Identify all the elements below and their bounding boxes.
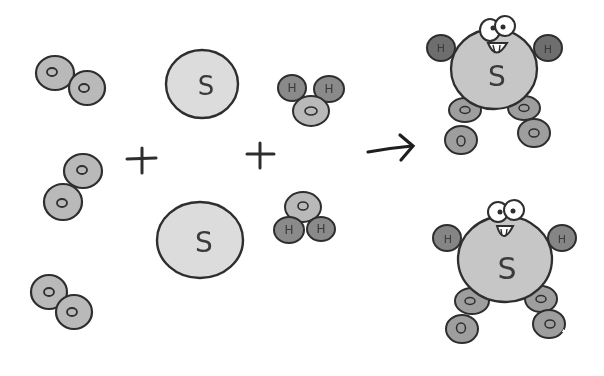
- oxygen-molecule: [36, 56, 105, 105]
- sulfur-label: S: [488, 60, 506, 93]
- oxygen-molecule: [31, 275, 92, 329]
- hydrogen-label: H: [558, 233, 566, 246]
- hydrogen-label: H: [544, 43, 552, 56]
- product-molecule: H H S: [427, 16, 562, 154]
- hydrogen-label: H: [437, 42, 445, 55]
- sulfur-atom: S: [157, 202, 243, 278]
- product-molecule: H H S: [433, 200, 576, 343]
- sulfur-label: S: [195, 226, 213, 259]
- water-molecule: H H: [278, 75, 344, 126]
- water-molecule: H H: [274, 192, 335, 243]
- sulfur-atom: S: [166, 50, 238, 118]
- hydrogen-label: H: [316, 222, 325, 236]
- plus-sign: [127, 148, 156, 173]
- reaction-diagram: S S H H H H H: [0, 0, 604, 376]
- sulfur-label: S: [198, 71, 215, 101]
- hydrogen-label: H: [444, 233, 452, 246]
- sulfur-label: S: [497, 251, 516, 286]
- plus-sign: [247, 143, 274, 168]
- hydrogen-label: H: [284, 223, 293, 237]
- eyes: [488, 200, 524, 222]
- reaction-arrow: [368, 135, 413, 160]
- hydrogen-label: H: [324, 82, 333, 96]
- hydrogen-label: H: [287, 81, 296, 95]
- oxygen-molecule: [44, 154, 102, 220]
